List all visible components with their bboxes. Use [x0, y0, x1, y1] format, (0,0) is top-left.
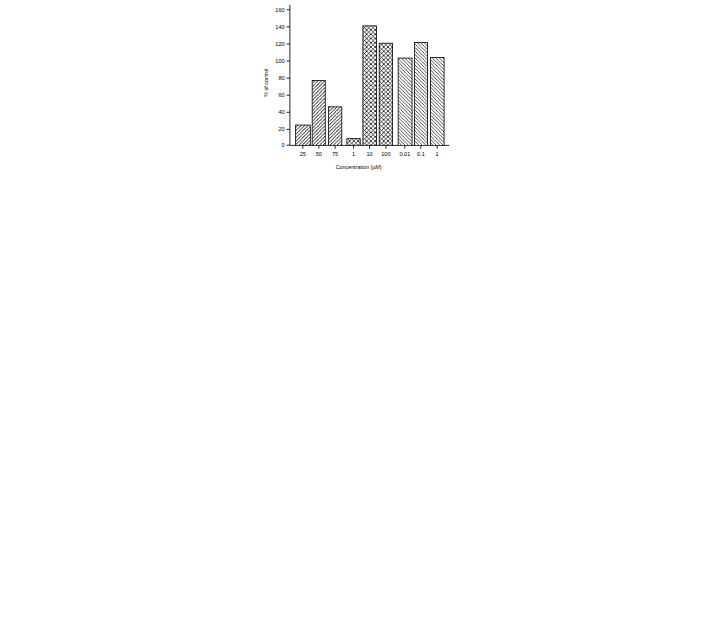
bar-chart-canvas: 160 140 120 100 80 60 40 20 0 % of contr… [0, 0, 709, 171]
y-axis-title: % of control [263, 69, 269, 97]
y-axis-tick-labels: 160 140 120 100 80 60 40 20 0 [275, 7, 284, 148]
bar-10-um [363, 26, 377, 146]
y-tick-label-40: 40 [278, 109, 284, 115]
bar-50 [312, 81, 325, 146]
bar-1-mm [430, 57, 444, 145]
x-axis: 25 50 75 1 10 100 0.01 0.1 1 Concentrati… [290, 145, 449, 169]
y-tick-label-60: 60 [278, 92, 284, 98]
bar-0-1 [414, 42, 427, 145]
x-tick-label-6: 100 [381, 151, 390, 157]
x-axis-title-text: Concentration (μM) [336, 164, 382, 170]
y-tick-label-80: 80 [278, 75, 284, 81]
y-tick-label-140: 140 [275, 24, 284, 30]
x-tick-label-9: 1 [436, 151, 439, 157]
x-tick-label-4: 1 [352, 151, 355, 157]
y-axis: 160 140 120 100 80 60 40 20 0 % of contr… [263, 5, 290, 148]
x-axis-ticks [303, 145, 437, 148]
x-tick-label-1: 25 [300, 151, 306, 157]
x-tick-label-7: 0.01 [399, 151, 410, 157]
chart-figure: 160 140 120 100 80 60 40 20 0 % of contr… [0, 0, 709, 642]
y-tick-label-0: 0 [282, 142, 285, 148]
x-axis-title: Concentration (μM) [336, 164, 382, 170]
y-tick-label-160: 160 [275, 7, 284, 13]
bar-75 [328, 107, 341, 146]
bar-100-um [379, 43, 392, 145]
y-tick-label-120: 120 [275, 41, 284, 47]
x-tick-label-2: 50 [316, 151, 322, 157]
y-axis-ticks [287, 10, 290, 145]
x-tick-label-8: 0.1 [417, 151, 425, 157]
bar-0-01 [398, 58, 412, 145]
bar-series [296, 26, 444, 146]
y-tick-label-100: 100 [275, 58, 284, 64]
bar-1-um [347, 139, 360, 146]
x-tick-label-3: 75 [332, 151, 338, 157]
y-tick-label-20: 20 [278, 126, 284, 132]
x-tick-label-5: 10 [366, 151, 372, 157]
x-axis-tick-labels: 25 50 75 1 10 100 0.01 0.1 1 [300, 151, 439, 157]
bar-25 [296, 125, 311, 145]
